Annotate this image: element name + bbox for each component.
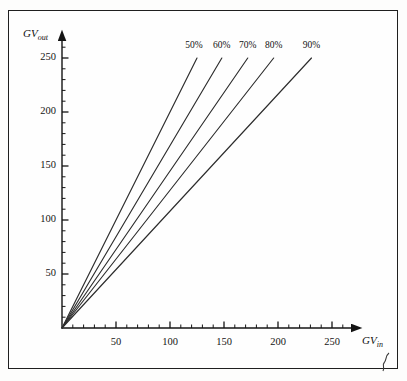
y-tick-label: 150 — [26, 159, 56, 170]
series-line — [62, 58, 197, 328]
x-axis-title: GVin — [362, 334, 383, 349]
series-label-60pct: 60% — [209, 40, 235, 50]
chart-svg — [0, 0, 407, 381]
y-tick-label: 250 — [26, 51, 56, 62]
series-label-50pct: 50% — [181, 40, 207, 50]
x-tick-label: 50 — [99, 336, 133, 347]
x-axis-ticks — [73, 322, 343, 329]
y-tick-label: 100 — [26, 213, 56, 224]
x-tick-label: 200 — [261, 336, 295, 347]
x-tick-label: 100 — [153, 336, 187, 347]
series-line — [62, 58, 222, 328]
y-tick-label: 200 — [26, 105, 56, 116]
y-tick-label: 50 — [26, 267, 56, 278]
pen-mark — [378, 352, 392, 372]
series-line — [62, 58, 311, 328]
series-label-80pct: 80% — [261, 40, 287, 50]
y-axis-title: GVout — [23, 27, 48, 42]
plot-area: GVout GVin 50100150200250 50100150200250… — [0, 0, 407, 381]
chart-page: GVout GVin 50100150200250 50100150200250… — [0, 0, 407, 381]
series-label-90pct: 90% — [298, 40, 324, 50]
x-tick-label: 250 — [315, 336, 349, 347]
series-lines — [62, 58, 311, 328]
y-axis-ticks — [62, 47, 69, 317]
series-line — [62, 58, 274, 328]
x-tick-label: 150 — [207, 336, 241, 347]
series-label-70pct: 70% — [235, 40, 261, 50]
series-line — [62, 58, 248, 328]
